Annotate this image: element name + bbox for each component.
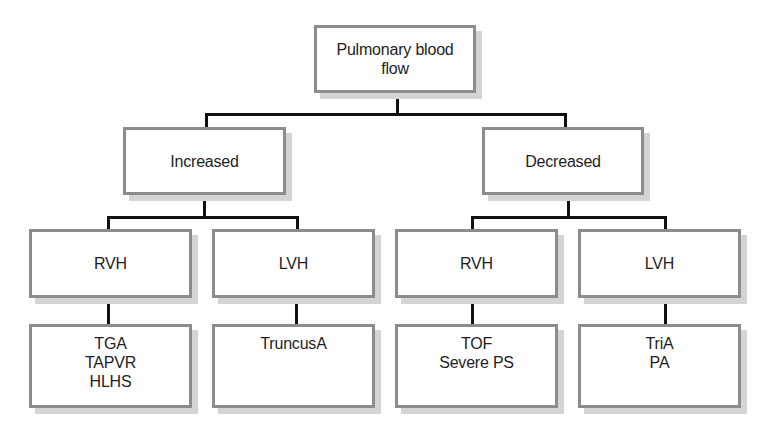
node-decreased-lvh: LVH <box>578 229 741 298</box>
node-increased-lvh: LVH <box>212 229 375 298</box>
node-pulmonary-blood-flow: Pulmonary blood flow <box>314 25 476 93</box>
node-increased-rvh: RVH <box>29 229 192 298</box>
leaf-item: HLHS <box>90 372 132 391</box>
leaf-item: Severe PS <box>439 353 514 372</box>
node-label: LVH <box>645 254 674 273</box>
node-label: RVH <box>460 254 493 273</box>
node-label-line-2: flow <box>381 59 409 78</box>
connector-to-decreased <box>564 113 567 128</box>
leaf-decreased-lvh: TriA PA <box>578 324 741 408</box>
node-label-line-1: Pulmonary blood <box>336 40 453 59</box>
leaf-decreased-rvh: TOF Severe PS <box>395 324 558 408</box>
leaf-item: TOF <box>461 334 492 353</box>
connector-to-increased <box>205 113 208 128</box>
leaf-increased-rvh: TGA TAPVR HLHS <box>29 324 192 408</box>
leaf-item: PA <box>650 353 670 372</box>
leaf-item: TruncusA <box>260 334 326 353</box>
node-increased: Increased <box>123 127 286 195</box>
connector-root-down <box>396 93 399 115</box>
node-label: LVH <box>279 254 308 273</box>
connector-to-dec-rvh <box>471 216 474 230</box>
connector-decreased-down <box>567 194 570 218</box>
node-label: RVH <box>94 254 127 273</box>
leaf-increased-lvh: TruncusA <box>212 324 375 408</box>
leaf-item: TriA <box>646 334 674 353</box>
node-decreased-rvh: RVH <box>395 229 558 298</box>
leaf-item: TGA <box>94 334 126 353</box>
node-label: Increased <box>170 152 238 171</box>
connector-increased-down <box>203 194 206 218</box>
connector-level1-bar <box>205 113 567 116</box>
connector-dec-lvh-leaf <box>664 297 667 324</box>
connector-to-dec-lvh <box>664 216 667 230</box>
node-label: Decreased <box>525 152 601 171</box>
connector-increased-bar <box>107 216 299 219</box>
connector-inc-rvh-leaf <box>107 297 110 324</box>
connector-to-inc-rvh <box>107 216 110 230</box>
connector-dec-rvh-leaf <box>471 297 474 324</box>
connector-to-inc-lvh <box>296 216 299 230</box>
connector-inc-lvh-leaf <box>295 297 298 324</box>
flowchart-canvas: Pulmonary blood flow Increased Decreased… <box>0 0 768 436</box>
connector-decreased-bar <box>471 216 667 219</box>
node-decreased: Decreased <box>482 127 644 195</box>
leaf-item: TAPVR <box>85 353 136 372</box>
